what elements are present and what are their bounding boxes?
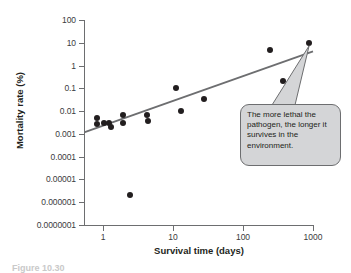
y-tick-label: 0.1	[0, 83, 76, 93]
data-point	[94, 115, 100, 121]
callout-text: The more lethal the pathogen, the longer…	[247, 110, 334, 151]
x-tick	[173, 225, 174, 231]
y-axis-line	[84, 20, 85, 226]
x-tick	[313, 225, 314, 231]
data-point	[173, 85, 179, 91]
y-tick-label: 0.00001	[0, 174, 76, 184]
data-point	[201, 96, 207, 102]
y-tick-label: 0.000001	[0, 197, 76, 207]
x-tick	[243, 225, 244, 231]
x-tick-label: 100	[218, 232, 268, 242]
data-point	[267, 47, 273, 53]
data-point	[306, 40, 312, 46]
y-tick-label: 0.001	[0, 129, 76, 139]
y-tick	[79, 202, 85, 203]
y-tick	[79, 111, 85, 112]
y-tick	[79, 20, 85, 21]
y-tick	[79, 225, 85, 226]
y-axis-title: Mortality rate (%)	[14, 56, 25, 166]
y-tick	[79, 134, 85, 135]
y-tick-label: 100	[0, 15, 76, 25]
x-tick	[103, 225, 104, 231]
data-point	[120, 112, 126, 118]
y-tick-label: 1	[0, 61, 76, 71]
y-tick	[79, 66, 85, 67]
data-point	[120, 120, 126, 126]
y-tick	[79, 88, 85, 89]
x-tick-label: 1	[78, 232, 128, 242]
figure-caption: Figure 10.30	[12, 263, 65, 273]
y-tick-label: 0.0001	[0, 152, 76, 162]
callout-box: The more lethal the pathogen, the longer…	[240, 104, 341, 166]
x-axis-line	[84, 225, 314, 226]
y-tick-label: 0.0000001	[0, 220, 76, 230]
x-tick-label: 10	[148, 232, 198, 242]
data-point	[178, 108, 184, 114]
y-tick	[79, 157, 85, 158]
y-tick-label: 0.01	[0, 106, 76, 116]
y-tick	[79, 179, 85, 180]
data-point	[145, 118, 151, 124]
y-tick	[79, 43, 85, 44]
x-axis-title: Survival time (days)	[84, 245, 314, 256]
data-point	[127, 192, 133, 198]
y-tick-label: 10	[0, 38, 76, 48]
x-tick-label: 1000	[288, 232, 338, 242]
data-point	[280, 78, 286, 84]
data-point	[94, 121, 100, 127]
data-point	[108, 124, 114, 130]
